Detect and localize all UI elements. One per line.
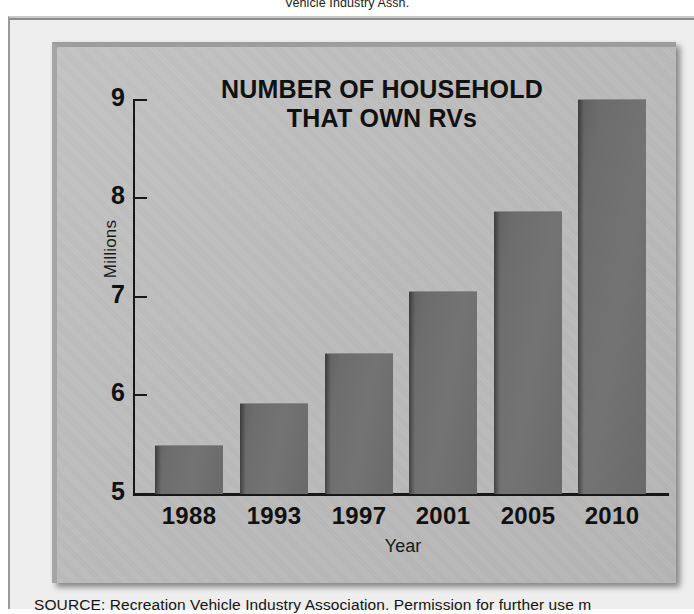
- chart-title: NUMBER OF HOUSEHOLD THAT OWN RVs: [147, 75, 617, 133]
- y-tick-label-6: 6: [85, 378, 125, 407]
- y-tick-7: [135, 296, 147, 298]
- y-tick-8: [135, 197, 147, 199]
- bar-2010: [578, 99, 646, 494]
- x-tick-label-1993: 1993: [229, 502, 319, 530]
- top-clipped-caption: Vehicle Industry Assn.: [0, 0, 694, 10]
- bar-2005: [494, 211, 562, 494]
- chart-title-line-1: NUMBER OF HOUSEHOLD: [221, 75, 543, 103]
- x-tick-label-2005: 2005: [483, 502, 573, 530]
- chart-panel: NUMBER OF HOUSEHOLD THAT OWN RVs 9 8 7 6…: [52, 42, 676, 583]
- x-axis-label: Year: [313, 536, 493, 557]
- chart-title-line-2: THAT OWN RVs: [147, 104, 617, 133]
- bar-2001: [409, 291, 477, 494]
- x-tick-label-1997: 1997: [314, 502, 404, 530]
- bar-1993: [240, 403, 308, 494]
- x-tick-label-1988: 1988: [144, 502, 234, 530]
- x-tick-label-2010: 2010: [567, 502, 657, 530]
- y-tick-5: [135, 493, 147, 495]
- y-tick-6: [135, 394, 147, 396]
- y-axis-label: Millions: [101, 189, 121, 309]
- y-tick-label-9: 9: [85, 83, 125, 112]
- y-tick-label-5: 5: [85, 477, 125, 506]
- source-note: SOURCE: Recreation Vehicle Industry Asso…: [34, 596, 694, 614]
- y-tick-9: [135, 99, 147, 101]
- bar-1988: [155, 445, 223, 494]
- figure-frame: NUMBER OF HOUSEHOLD THAT OWN RVs 9 8 7 6…: [8, 16, 694, 609]
- bar-1997: [325, 353, 393, 494]
- x-tick-label-2001: 2001: [398, 502, 488, 530]
